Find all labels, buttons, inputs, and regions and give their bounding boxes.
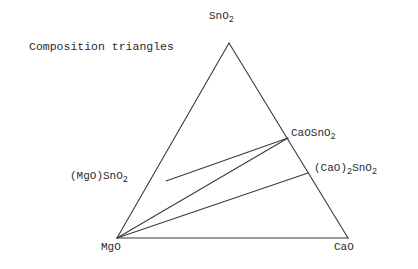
label-cao2sno2-subscript-2: 2 — [372, 167, 377, 177]
tieline-mgosno2-to-caosno2 — [166, 138, 288, 181]
label-cao: CaO — [334, 241, 354, 253]
label-cao2sno2-prefix: (CaO) — [314, 162, 347, 174]
label-sno2: SnO2 — [209, 10, 234, 22]
label-caosno2: CaOSnO2 — [291, 127, 336, 139]
label-caosno2-text: CaOSnO — [291, 127, 331, 139]
label-mgo: MgO — [101, 241, 121, 253]
label-cao2sno2-subscript-1: 2 — [347, 167, 352, 177]
label-mgosno2-text: SnO — [103, 170, 123, 182]
label-mgosno2: (MgO)SnO2 — [70, 170, 128, 182]
label-mgo-text: MgO — [101, 241, 121, 253]
edge-sno2-mgo — [117, 43, 229, 238]
composition-triangle-figure: Composition triangles SnO2 CaOSnO2 (CaO)… — [0, 0, 418, 269]
label-sno2-text: SnO — [209, 10, 229, 22]
label-cao2sno2: (CaO)2SnO2 — [314, 162, 377, 174]
label-cao-text: CaO — [334, 241, 354, 253]
label-mgosno2-prefix: (MgO) — [70, 170, 103, 182]
label-caosno2-subscript: 2 — [331, 132, 336, 142]
label-sno2-subscript: 2 — [229, 15, 234, 25]
label-mgosno2-subscript: 2 — [123, 175, 128, 185]
figure-caption: Composition triangles — [29, 40, 174, 53]
label-cao2sno2-text: SnO — [352, 162, 372, 174]
